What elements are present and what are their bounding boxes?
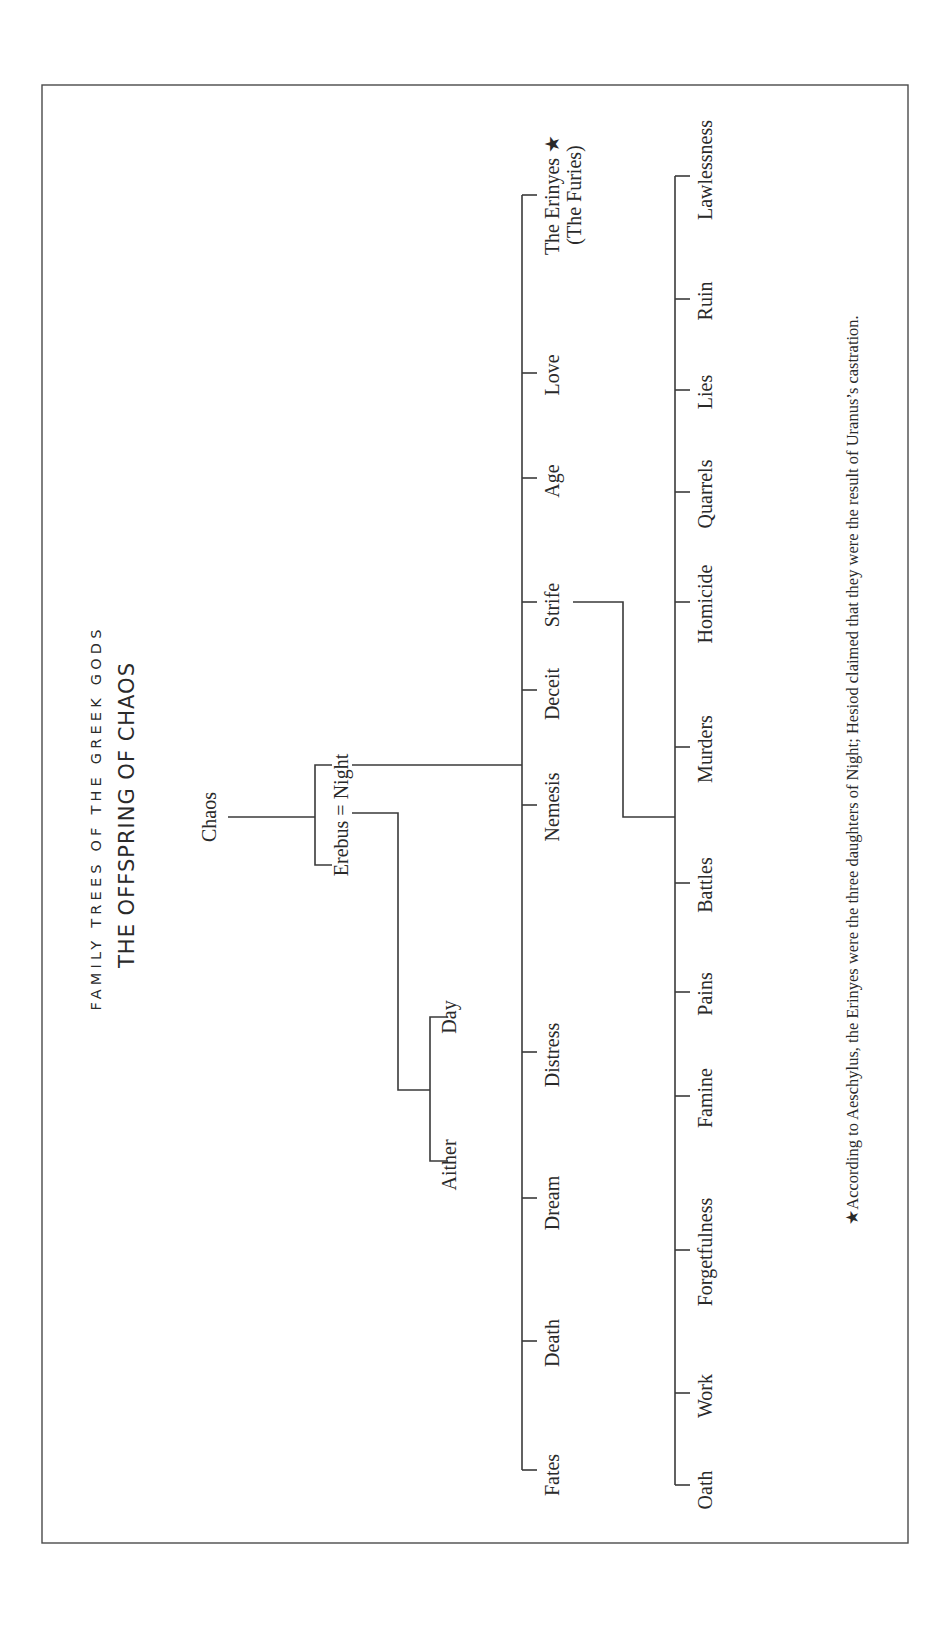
- node-day: Day: [438, 1000, 461, 1033]
- diagram-title: THE OFFSPRING OF CHAOS: [115, 662, 139, 969]
- strife-children-ticks: [675, 176, 690, 1485]
- connector-erebus-night-children: [352, 813, 430, 1090]
- node-aither: Aither: [438, 1139, 460, 1190]
- node-love: Love: [541, 354, 563, 395]
- node-chaos: Chaos: [198, 792, 220, 842]
- node-forgetfulness: Forgetfulness: [694, 1198, 717, 1307]
- node-deceit: Deceit: [541, 667, 563, 720]
- node-pains: Pains: [694, 972, 716, 1016]
- node-death: Death: [541, 1319, 563, 1367]
- diagram-kicker: FAMILY TREES OF THE GREEK GODS: [88, 625, 104, 1010]
- node-nemesis: Nemesis: [541, 772, 563, 841]
- family-tree-diagram: FAMILY TREES OF THE GREEK GODS THE OFFSP…: [0, 0, 952, 1646]
- node-lies: Lies: [694, 375, 716, 410]
- node-strife: Strife: [541, 583, 563, 628]
- footnote: ★According to Aeschylus, the Erinyes wer…: [843, 315, 862, 1224]
- node-quarrels: Quarrels: [694, 459, 716, 528]
- night-children-ticks: [522, 195, 537, 1470]
- node-fates: Fates: [541, 1454, 563, 1496]
- node-oath: Oath: [694, 1471, 716, 1510]
- node-distress: Distress: [541, 1023, 563, 1088]
- node-erinyes-subtitle: (The Furies): [563, 145, 586, 244]
- node-age: Age: [541, 464, 564, 497]
- node-homicide: Homicide: [694, 564, 716, 643]
- connector-strife-children: [573, 602, 675, 817]
- node-erebus-night: Erebus = Night: [330, 753, 353, 876]
- node-famine: Famine: [694, 1068, 716, 1128]
- bracket-aither-day: [430, 1017, 448, 1161]
- node-murders: Murders: [694, 715, 716, 783]
- node-dream: Dream: [541, 1175, 563, 1230]
- page-frame: [42, 85, 908, 1543]
- node-lawlessness: Lawlessness: [694, 120, 716, 220]
- node-work: Work: [694, 1374, 716, 1418]
- node-ruin: Ruin: [694, 282, 716, 321]
- node-battles: Battles: [694, 857, 716, 913]
- node-erinyes: The Erinyes ★: [541, 135, 564, 255]
